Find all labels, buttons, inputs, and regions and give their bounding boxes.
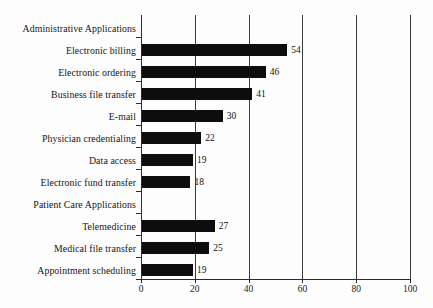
category-label: Telemedicine [0, 214, 136, 238]
category-label: Electronic fund transfer [0, 170, 136, 194]
bar-row: Telemedicine27 [0, 214, 433, 238]
category-header-row: Patient Care Applications [0, 192, 433, 216]
bar [142, 220, 215, 232]
category-label: Electronic billing [0, 38, 136, 62]
bar-row: Physician credentialing22 [0, 126, 433, 150]
x-tick-label-40: 40 [229, 284, 269, 294]
bar [142, 154, 193, 166]
category-header-row: Administrative Applications [0, 16, 433, 40]
category-label: Appointment scheduling [0, 258, 136, 282]
bar [142, 176, 190, 188]
category-label: Patient Care Applications [0, 192, 136, 216]
bar-value-label: 25 [209, 242, 223, 254]
bar-row: Medical file transfer25 [0, 236, 433, 260]
bar [142, 242, 209, 254]
category-label: Electronic ordering [0, 60, 136, 84]
bar-value-label: 19 [193, 154, 207, 166]
bar [142, 110, 223, 122]
bar [142, 264, 193, 276]
x-tick-label-100: 100 [390, 284, 430, 294]
bar-row: Appointment scheduling19 [0, 258, 433, 282]
bar [142, 132, 201, 144]
bar [142, 44, 287, 56]
bar-value-label: 18 [190, 176, 204, 188]
category-label: Business file transfer [0, 82, 136, 106]
bar-row: Electronic fund transfer18 [0, 170, 433, 194]
bar-row: Business file transfer41 [0, 82, 433, 106]
bar-value-label: 22 [201, 132, 215, 144]
x-tick-label-60: 60 [282, 284, 322, 294]
bar [142, 88, 252, 100]
category-label: Data access [0, 148, 136, 172]
bar-chart: 020406080100 Administrative Applications… [0, 0, 433, 308]
bar-row: Electronic ordering46 [0, 60, 433, 84]
bar-value-label: 27 [215, 220, 229, 232]
bar [142, 66, 266, 78]
bar-row: Data access19 [0, 148, 433, 172]
bar-value-label: 30 [223, 110, 237, 122]
bar-row: E-mail30 [0, 104, 433, 128]
x-tick-label-80: 80 [336, 284, 376, 294]
x-tick-label-0: 0 [121, 284, 161, 294]
bar-value-label: 46 [266, 66, 280, 78]
bar-value-label: 54 [287, 44, 301, 56]
bar-value-label: 41 [252, 88, 266, 100]
bar-value-label: 19 [193, 264, 207, 276]
category-label: Administrative Applications [0, 16, 136, 40]
category-label: E-mail [0, 104, 136, 128]
bar-row: Electronic billing54 [0, 38, 433, 62]
category-label: Medical file transfer [0, 236, 136, 260]
category-label: Physician credentialing [0, 126, 136, 150]
x-tick-label-20: 20 [175, 284, 215, 294]
